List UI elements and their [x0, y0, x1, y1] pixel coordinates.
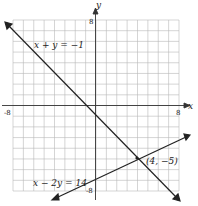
- y-axis-label: y: [95, 0, 102, 10]
- intersection-point: [135, 156, 138, 159]
- y-min-tick: -8: [86, 187, 93, 195]
- x-max-tick: 8: [176, 109, 180, 117]
- intersection-label: (4, −5): [146, 156, 178, 166]
- x-axis-label: x: [188, 101, 193, 111]
- y-max-tick: 8: [89, 18, 93, 26]
- line-x-plus-y: [5, 22, 180, 201]
- label-line-1: x + y = −1: [34, 40, 84, 50]
- label-line-2: x − 2y = 14: [33, 178, 87, 188]
- coordinate-plane: x y -8 8 8 -8 x + y = −1 x − 2y = 14 (4,…: [0, 0, 198, 206]
- x-min-tick: -8: [4, 109, 11, 117]
